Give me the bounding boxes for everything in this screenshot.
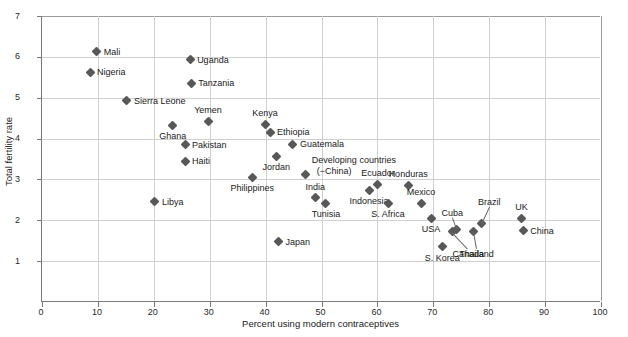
y-axis-tick-label: 1 — [0, 257, 20, 266]
data-point-label: Japan — [285, 237, 310, 246]
data-point-label: Tanzania — [198, 79, 234, 88]
data-point-label: Cuba — [441, 209, 463, 218]
label-line-1: Developing countries — [312, 155, 396, 165]
y-axis-tick — [37, 139, 42, 140]
data-point-marker — [265, 127, 275, 137]
data-point-label: India — [306, 182, 326, 191]
data-point-marker — [271, 151, 281, 161]
y-axis-tick — [37, 16, 42, 17]
data-point-label: Ethiopia — [277, 128, 310, 137]
data-point-marker — [203, 116, 213, 126]
x-axis-tick-label: 100 — [585, 308, 615, 317]
data-point-marker — [85, 67, 95, 77]
data-point-label: Haiti — [192, 157, 210, 166]
y-axis-tick-label: 6 — [0, 52, 20, 61]
data-point-marker — [310, 193, 320, 203]
data-point-label: S. Africa — [371, 210, 405, 219]
y-axis-tick — [37, 98, 42, 99]
data-point-label: Indonesia — [349, 197, 388, 206]
data-point-marker — [274, 237, 284, 247]
data-point-label: Nigeria — [97, 68, 126, 77]
x-axis-tick-label: 70 — [417, 308, 447, 317]
data-point-label: Ghana — [159, 132, 186, 141]
x-axis-tick-label: 60 — [361, 308, 391, 317]
data-point-label: Thailand — [459, 249, 494, 258]
data-point-marker — [168, 120, 178, 130]
x-axis-title: Percent using modern contraceptives — [41, 318, 600, 329]
data-point-marker — [180, 156, 190, 166]
data-point-label: Libya — [162, 197, 184, 206]
y-axis-tick-label: 7 — [0, 12, 20, 21]
y-axis-tick-label: 5 — [0, 93, 20, 102]
data-point-label: Mali — [104, 47, 121, 56]
data-point-marker — [92, 47, 102, 57]
data-point-label: Philippines — [230, 184, 274, 193]
data-point-marker — [364, 186, 374, 196]
label-line-2: (−China) — [312, 166, 352, 176]
data-point-marker — [288, 139, 298, 149]
data-point-marker — [518, 226, 528, 236]
data-point-label: Brazil — [478, 197, 501, 206]
y-axis-tick — [37, 261, 42, 262]
scatter-chart-figure: Total fertility rate Percent using moder… — [0, 0, 628, 337]
data-point-label: Honduras — [389, 170, 428, 179]
data-point-marker — [426, 213, 436, 223]
gridline-vertical — [601, 16, 602, 301]
x-axis-tick-label: 20 — [138, 308, 168, 317]
data-point-label: Uganda — [197, 55, 229, 64]
x-axis-tick-label: 90 — [529, 308, 559, 317]
data-point-marker — [150, 197, 160, 207]
data-point-marker — [301, 170, 311, 180]
data-point-label: Sierra Leone — [134, 96, 186, 105]
x-axis-tick-label: 80 — [473, 308, 503, 317]
data-point-label: UK — [515, 203, 528, 212]
data-point-marker — [186, 78, 196, 88]
data-point-label: Yemen — [194, 106, 222, 115]
gridline-vertical — [489, 16, 490, 301]
data-point-marker — [437, 242, 447, 252]
label-leader-line — [473, 232, 477, 249]
label-leader-line — [452, 232, 469, 250]
data-point-label: Mexico — [407, 188, 436, 197]
data-point-label: Guatemala — [300, 140, 344, 149]
y-axis-tick-label: 4 — [0, 134, 20, 143]
data-point-label: Jordan — [262, 163, 290, 172]
y-axis-tick — [37, 220, 42, 221]
y-axis-tick-label: 2 — [0, 216, 20, 225]
y-axis-tick — [37, 57, 42, 58]
data-point-label: Tunisia — [312, 210, 341, 219]
data-point-marker — [180, 140, 190, 150]
data-point-label: USA — [422, 225, 441, 234]
x-axis-tick-label: 30 — [194, 308, 224, 317]
x-axis-tick-label: 50 — [306, 308, 336, 317]
y-axis-tick — [37, 179, 42, 180]
gridline-vertical — [98, 16, 99, 301]
x-axis-tick-label: 10 — [82, 308, 112, 317]
data-point-marker — [416, 198, 426, 208]
gridline-vertical — [266, 16, 267, 301]
x-axis-tick-label: 0 — [26, 308, 56, 317]
data-point-marker — [373, 179, 383, 189]
plot-area: MaliNigeriaUgandaTanzaniaSierra LeoneYem… — [41, 16, 600, 302]
gridline-vertical — [154, 16, 155, 301]
x-axis-tick-label: 40 — [250, 308, 280, 317]
data-point-label: S. Korea — [425, 253, 460, 262]
y-axis-tick-label: 3 — [0, 175, 20, 184]
data-point-marker — [517, 213, 527, 223]
data-point-marker — [321, 198, 331, 208]
data-point-marker — [247, 172, 257, 182]
data-point-label: Pakistan — [192, 140, 227, 149]
data-point-label: China — [530, 226, 554, 235]
gridline-vertical — [545, 16, 546, 301]
data-point-label: Kenya — [252, 109, 278, 118]
